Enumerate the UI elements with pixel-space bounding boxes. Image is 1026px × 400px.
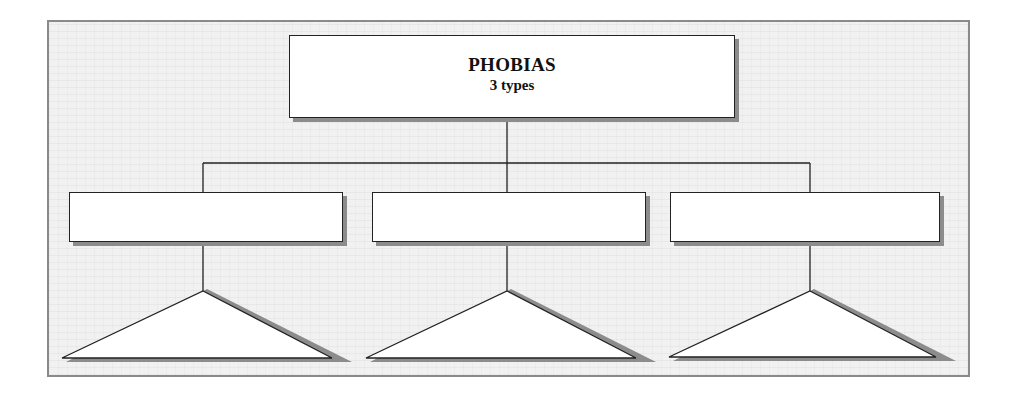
child-node-1 — [69, 192, 343, 242]
triangle-1 — [62, 291, 332, 358]
root-node: PHOBIAS 3 types — [289, 35, 735, 118]
child-node-3 — [670, 192, 940, 242]
child-node-2 — [372, 192, 646, 242]
triangle-3 — [669, 291, 936, 357]
root-title: PHOBIAS — [290, 54, 734, 76]
root-subtitle: 3 types — [290, 77, 734, 94]
triangle-2 — [366, 291, 636, 358]
